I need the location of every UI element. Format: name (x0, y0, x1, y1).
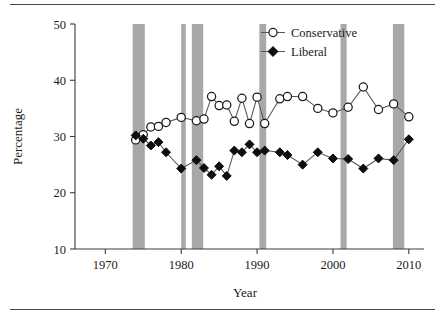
data-point-conservative (405, 113, 413, 121)
series-conservative (132, 83, 413, 144)
recession-band (181, 24, 186, 249)
data-point-conservative (147, 123, 155, 131)
figure-bottom-rule (10, 309, 435, 310)
data-point-conservative (207, 92, 215, 100)
legend-marker-liberal-solid-diamond-icon (268, 47, 278, 57)
axes-group: 5040302010 19701980199020002010 (54, 18, 425, 273)
data-point-conservative (162, 118, 170, 126)
legend-item-conservative: Conservative (261, 26, 357, 40)
legend-label-conservative: Conservative (291, 26, 357, 40)
data-point-conservative (329, 109, 337, 117)
recession-band (259, 24, 266, 249)
data-point-conservative (230, 117, 238, 125)
y-tick-label: 10 (54, 243, 67, 257)
data-point-conservative (192, 117, 200, 125)
y-tick-label: 40 (54, 74, 67, 88)
data-point-liberal (404, 135, 413, 144)
legend-item-liberal: Liberal (261, 45, 328, 59)
x-tick-label: 2000 (320, 258, 345, 272)
data-point-conservative (177, 113, 185, 121)
y-tick-label: 20 (54, 186, 67, 200)
data-series-group (131, 83, 413, 180)
legend-marker-conservative-open-circle-icon (269, 28, 277, 36)
recession-band (192, 24, 203, 249)
x-tick-label: 1990 (245, 258, 270, 272)
data-point-conservative (374, 105, 382, 113)
data-point-liberal (230, 146, 239, 155)
recession-bands-group (133, 24, 405, 249)
data-point-conservative (238, 94, 246, 102)
y-tick-label: 30 (54, 130, 67, 144)
recession-band (393, 24, 404, 249)
data-point-conservative (344, 103, 352, 111)
data-point-conservative (154, 122, 162, 130)
data-point-liberal (374, 154, 383, 163)
data-point-conservative (215, 101, 223, 109)
data-point-conservative (314, 104, 322, 112)
x-tick-group: 19701980199020002010 (93, 249, 421, 272)
x-axis-title: Year (233, 285, 258, 300)
recession-band (341, 24, 347, 249)
figure-container: 5040302010 19701980199020002010 Percenta… (0, 0, 445, 319)
data-point-conservative (276, 95, 284, 103)
series-line-conservative (136, 87, 409, 140)
series-liberal (131, 131, 413, 181)
y-tick-label: 50 (54, 18, 67, 32)
series-line-liberal (136, 135, 409, 176)
x-tick-label: 1970 (93, 258, 118, 272)
line-chart: 5040302010 19701980199020002010 Percenta… (0, 0, 445, 319)
data-point-conservative (223, 101, 231, 109)
data-point-conservative (253, 93, 261, 101)
data-point-conservative (359, 83, 367, 91)
data-point-conservative (299, 92, 307, 100)
y-tick-group: 5040302010 (54, 18, 76, 257)
legend-label-liberal: Liberal (291, 45, 328, 59)
data-point-liberal (359, 164, 368, 173)
data-point-conservative (283, 92, 291, 100)
data-point-liberal (328, 154, 337, 163)
x-tick-label: 2010 (396, 258, 421, 272)
data-point-conservative (200, 115, 208, 123)
y-axis-title: Percentage (10, 108, 25, 165)
data-point-conservative (390, 100, 398, 108)
figure-top-rule (10, 4, 435, 5)
data-point-conservative (261, 119, 269, 127)
data-point-conservative (245, 119, 253, 127)
x-tick-label: 1980 (169, 258, 194, 272)
